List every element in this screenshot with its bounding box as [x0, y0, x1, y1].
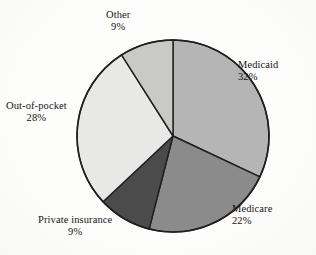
slice-label-medicaid-name: Medicaid [238, 59, 278, 71]
slice-label-other-name: Other [106, 9, 130, 21]
slice-label-medicare-name: Medicare [232, 203, 272, 215]
slice-label-private-insurance-name: Private insurance [38, 214, 112, 226]
pie-chart-figure: Medicaid 32% Medicare 22% Private insura… [0, 0, 316, 255]
slice-label-out-of-pocket-name: Out-of-pocket [6, 100, 67, 112]
slice-label-medicare-value: 22% [232, 215, 272, 227]
slice-label-other: Other 9% [106, 9, 130, 33]
slice-label-medicare: Medicare 22% [232, 203, 272, 227]
slice-label-out-of-pocket: Out-of-pocket 28% [6, 100, 67, 124]
slice-label-other-value: 9% [106, 21, 130, 33]
slice-label-private-insurance: Private insurance 9% [38, 214, 112, 238]
slice-label-out-of-pocket-value: 28% [6, 112, 67, 124]
slice-label-medicaid-value: 32% [238, 71, 278, 83]
slice-label-medicaid: Medicaid 32% [238, 59, 278, 83]
slice-label-private-insurance-value: 9% [38, 226, 112, 238]
